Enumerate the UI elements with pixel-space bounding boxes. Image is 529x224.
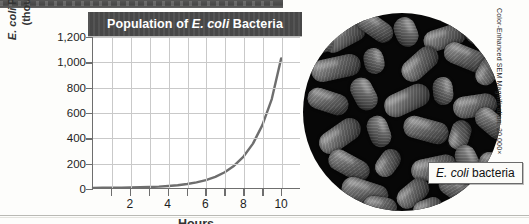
bacterium-rod: [364, 113, 395, 150]
x-axis-tick: [111, 189, 112, 196]
chart-title-suffix: Bacteria: [229, 17, 283, 31]
photo-credit: Color-Enhanced SEM Magnification: 20,000…: [496, 8, 503, 154]
chart-title-italic: E. coli: [192, 17, 230, 31]
gridline-vertical: [150, 37, 151, 188]
y-axis-title-italic: E. coli: [6, 8, 18, 40]
bacterium-rod: [401, 113, 451, 146]
y-axis-title: E. coli Population (thousands): [6, 0, 34, 54]
plot-area: [92, 37, 300, 189]
y-axis-tick: [86, 164, 93, 165]
gridline-horizontal: [93, 138, 300, 139]
x-axis-tick: [187, 189, 188, 196]
bacterium-rod: [362, 46, 387, 76]
page-top-band: [0, 0, 283, 8]
x-axis-tick: [224, 189, 225, 196]
chart-title-bar: Population of E. coli Bacteria: [88, 12, 302, 36]
chart-title: Population of E. coli Bacteria: [107, 17, 283, 31]
y-axis-tick: [86, 113, 93, 114]
y-axis-tick-label: 600: [44, 107, 86, 119]
gridline-vertical: [112, 37, 113, 188]
x-axis-tick: [243, 189, 244, 196]
gridline-vertical: [169, 37, 170, 188]
photo-caption-italic: E. coli: [436, 166, 469, 180]
y-axis-tick-label: 400: [44, 132, 86, 144]
y-axis-tick: [86, 189, 93, 190]
y-axis-tick-label: 1,200: [44, 31, 86, 43]
y-axis-tick: [86, 37, 93, 38]
gridline-vertical: [225, 37, 226, 188]
y-axis-tick: [86, 88, 93, 89]
population-chart: Population of E. coli Bacteria 020040060…: [0, 12, 305, 212]
x-axis-tick-label: 6: [202, 197, 209, 211]
figure-root: Population of E. coli Bacteria 020040060…: [0, 0, 529, 224]
bacterium-rod: [390, 14, 422, 50]
gridline-horizontal: [93, 88, 300, 89]
y-axis-tick: [86, 138, 93, 139]
gridline-vertical: [188, 37, 189, 188]
x-axis-tick-label: 8: [240, 197, 247, 211]
x-axis-tick: [149, 189, 150, 196]
x-axis-tick: [262, 189, 263, 196]
footer-rule-light: [0, 217, 529, 218]
gridline-vertical: [206, 37, 207, 188]
bacterium-rod: [362, 195, 398, 211]
gridline-horizontal: [93, 37, 300, 38]
y-axis-tick: [86, 62, 93, 63]
x-axis-tick: [130, 189, 131, 196]
photo-caption-rest: bacteria: [469, 166, 515, 180]
gridline-vertical: [282, 37, 283, 188]
x-axis-tick-label: 10: [274, 197, 287, 211]
gridline-horizontal: [93, 62, 300, 63]
x-axis-tick: [168, 189, 169, 196]
gridline-horizontal: [93, 164, 300, 165]
gridline-vertical: [244, 37, 245, 188]
y-axis-title-units: (thousands): [20, 0, 34, 54]
bacterium-rod: [346, 74, 381, 114]
bacterium-rod: [432, 76, 455, 106]
gridline-horizontal: [93, 113, 300, 114]
y-axis-title-rest: Population: [6, 0, 18, 8]
x-axis-tick-label: 2: [126, 197, 133, 211]
x-axis-title: Hours: [92, 217, 300, 224]
photo-caption: E. coli bacteria: [428, 162, 523, 184]
x-axis-tick-label: 4: [164, 197, 171, 211]
footer-rule: [0, 215, 529, 216]
y-axis-labels: 02004006008001,0001,200: [36, 37, 86, 189]
bacterium-rod: [380, 80, 433, 121]
bacterium-rod: [305, 85, 351, 118]
y-axis-tick-label: 200: [44, 158, 86, 170]
y-axis-tick-label: 800: [44, 82, 86, 94]
gridline-vertical: [131, 37, 132, 188]
x-axis-tick: [205, 189, 206, 196]
y-axis-tick-label: 0: [44, 183, 86, 195]
x-axis-tick: [281, 189, 282, 196]
bacterium-rod: [371, 145, 405, 181]
y-axis-tick-label: 1,000: [44, 56, 86, 68]
chart-title-prefix: Population of: [107, 17, 192, 31]
gridline-vertical: [263, 37, 264, 188]
